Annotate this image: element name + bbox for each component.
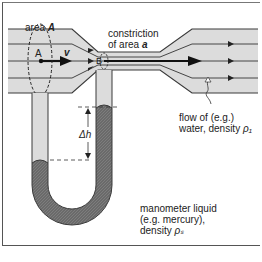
- constriction-symbol: a: [142, 39, 148, 50]
- constriction-label: constrictionof area a: [108, 28, 159, 50]
- flow-label: flow of (e.g.)water, density ρ₁: [179, 112, 252, 134]
- point-b-label: B: [96, 56, 102, 67]
- constriction-line2: of area: [108, 39, 142, 50]
- manometer-line3: density: [140, 225, 174, 236]
- area-a-symbol: A: [48, 22, 55, 33]
- delta-h-label: Δh: [79, 129, 91, 140]
- manometer-line1: manometer liquid: [140, 203, 217, 214]
- manometer-density-symbol: ρₛ: [174, 225, 184, 236]
- flow-line1: flow of (e.g.): [179, 112, 234, 123]
- manometer-label: manometer liquid(e.g. mercury),density ρ…: [140, 203, 217, 236]
- manometer-line2: (e.g. mercury),: [140, 214, 205, 225]
- area-a-prefix: area: [25, 22, 48, 33]
- velocity-label: v: [64, 47, 70, 58]
- point-a-label: A: [35, 48, 42, 59]
- area-a-label: area A: [25, 22, 55, 33]
- constriction-line1: constriction: [108, 28, 159, 39]
- flow-density-symbol: ρ₁: [243, 123, 252, 134]
- flow-line2: water, density: [179, 123, 243, 134]
